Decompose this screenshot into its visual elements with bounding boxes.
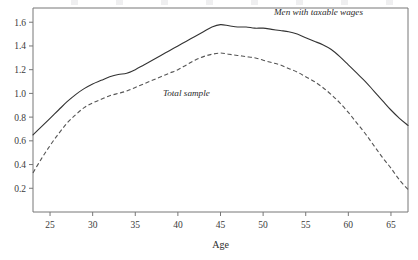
y-tick-label: 0.8 xyxy=(14,113,26,123)
y-tick-label: 0.6 xyxy=(14,136,26,146)
y-tick-label: 1.6 xyxy=(14,18,26,28)
series-total-sample xyxy=(33,53,408,189)
line-chart: 0.20.40.60.81.01.21.41.6 253035404550556… xyxy=(0,0,418,260)
x-tick-label: 45 xyxy=(216,220,226,230)
series-label-total-sample: Total sample xyxy=(163,88,210,98)
x-tick-label: 35 xyxy=(131,220,141,230)
y-tick-label: 1.4 xyxy=(14,41,26,51)
series-men-with-taxable-wages xyxy=(33,25,408,135)
y-axis-ticks: 0.20.40.60.81.01.21.41.6 xyxy=(14,18,33,194)
series-label-men-with-taxable-wages: Men with taxable wages xyxy=(273,7,363,17)
x-tick-label: 60 xyxy=(344,220,354,230)
y-tick-label: 0.2 xyxy=(14,184,26,194)
y-tick-label: 1.2 xyxy=(14,65,26,75)
chart-container: 0.20.40.60.81.01.21.41.6 253035404550556… xyxy=(0,0,418,260)
x-tick-label: 25 xyxy=(45,220,55,230)
x-tick-label: 30 xyxy=(88,220,98,230)
x-tick-label: 40 xyxy=(173,220,183,230)
x-axis-ticks: 253035404550556065 xyxy=(45,212,396,230)
plot-frame xyxy=(33,8,408,212)
x-tick-label: 65 xyxy=(386,220,396,230)
x-tick-label: 55 xyxy=(301,220,311,230)
x-tick-label: 50 xyxy=(258,220,268,230)
y-tick-label: 0.4 xyxy=(14,160,26,170)
x-axis-title: Age xyxy=(212,239,229,250)
y-tick-label: 1.0 xyxy=(14,89,26,99)
